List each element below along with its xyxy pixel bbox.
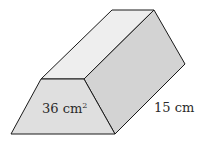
length-label: 15 cm [154, 100, 194, 115]
area-label: 36 cm2 [42, 101, 87, 116]
prism-diagram: 36 cm2 15 cm [0, 0, 198, 142]
